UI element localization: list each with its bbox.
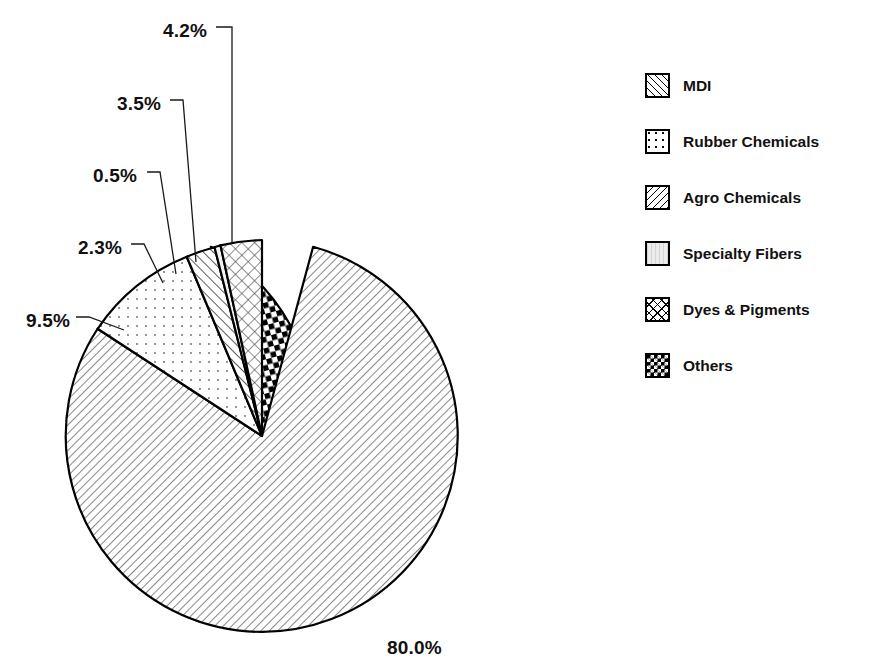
- leader-line-dyes: [170, 100, 196, 262]
- legend-swatch-rubber-chemicals-icon: [645, 129, 670, 154]
- legend-item-mdi[interactable]: MDI: [645, 72, 877, 99]
- legend-label-rubber-chemicals: Rubber Chemicals: [683, 134, 819, 150]
- legend-swatch-others-icon: [645, 353, 670, 378]
- legend-label-agro-chemicals: Agro Chemicals: [683, 190, 801, 206]
- pie-label-agro: 2.3%: [78, 238, 122, 257]
- pie-slices: [66, 231, 458, 632]
- legend-swatch-mdi-icon: [645, 73, 670, 98]
- legend-item-others[interactable]: Others: [645, 352, 877, 379]
- legend-swatch-dyes-and-pigments-icon: [645, 297, 670, 322]
- legend-label-mdi: MDI: [683, 78, 711, 94]
- legend-label-others: Others: [683, 358, 733, 374]
- legend-item-specialty-fibers[interactable]: Specialty Fibers: [645, 240, 877, 267]
- chart-legend: MDI Rubber Chemicals Agro Chemicals Spec…: [645, 72, 877, 408]
- legend-label-specialty-fibers: Specialty Fibers: [683, 246, 802, 262]
- pie-label-dyes: 3.5%: [117, 94, 161, 113]
- legend-item-rubber-chemicals[interactable]: Rubber Chemicals: [645, 128, 877, 155]
- pie-label-mdi: 80.0%: [387, 638, 442, 657]
- legend-item-agro-chemicals[interactable]: Agro Chemicals: [645, 184, 877, 211]
- pie-label-specialty: 0.5%: [93, 166, 137, 185]
- leader-line-others: [216, 27, 232, 243]
- legend-item-dyes-and-pigments[interactable]: Dyes & Pigments: [645, 296, 877, 323]
- legend-label-dyes-and-pigments: Dyes & Pigments: [683, 302, 810, 318]
- legend-swatch-specialty-fibers-icon: [645, 241, 670, 266]
- legend-swatch-agro-chemicals-icon: [645, 185, 670, 210]
- pie-label-others: 4.2%: [163, 21, 207, 40]
- pie-chart-figure: 4.2% 3.5% 0.5% 2.3% 9.5% 80.0% MDI Rubbe…: [0, 0, 884, 670]
- pie-label-rubber: 9.5%: [26, 311, 70, 330]
